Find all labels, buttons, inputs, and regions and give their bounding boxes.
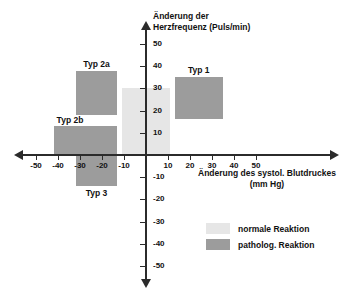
x-axis-tick bbox=[58, 155, 59, 160]
chart-canvas: 5040302010-10-20-30-40-50-50-40-30-20-10… bbox=[0, 0, 361, 301]
y-axis-tick bbox=[140, 111, 145, 112]
y-axis-tick-label: -50 bbox=[153, 261, 165, 270]
y-axis-arrow-down-icon bbox=[141, 279, 151, 288]
y-axis-tick-label: 10 bbox=[153, 128, 162, 137]
legend-item-normale-reaktion: normale Reaktion bbox=[206, 222, 315, 235]
y-axis-tick-label: 50 bbox=[153, 39, 162, 48]
region-label-typ-2b: Typ 2b bbox=[57, 115, 84, 125]
x-axis-tick-label: -30 bbox=[74, 161, 86, 170]
x-axis-tick-label: -40 bbox=[52, 161, 64, 170]
x-axis-tick bbox=[256, 155, 257, 160]
x-axis-tick bbox=[168, 155, 169, 160]
legend-label-patholog-reaktion: patholog. Reaktion bbox=[238, 240, 315, 250]
y-axis-tick-label: -30 bbox=[153, 217, 165, 226]
region-typ-2b bbox=[54, 126, 118, 155]
x-axis-tick-label: -20 bbox=[96, 161, 108, 170]
y-axis-tick bbox=[140, 44, 145, 45]
y-axis-title: Änderung der Herzfrequenz (Puls/min) bbox=[153, 11, 250, 33]
x-axis-title-line2: (mm Hg) bbox=[198, 179, 336, 190]
y-axis-title-line2: Herzfrequenz (Puls/min) bbox=[153, 22, 250, 33]
x-axis-tick-label: 20 bbox=[186, 161, 195, 170]
y-axis-title-line1: Änderung der bbox=[153, 11, 250, 22]
x-axis-tick bbox=[124, 155, 125, 160]
y-axis-tick-label: -10 bbox=[153, 172, 165, 181]
x-axis-arrow-right-icon bbox=[330, 150, 339, 160]
x-axis-title-line1: Änderung des systol. Blutdruckes bbox=[198, 168, 336, 179]
chart-legend: normale Reaktion patholog. Reaktion bbox=[206, 222, 315, 254]
legend-swatch-patholog-reaktion bbox=[206, 239, 230, 250]
y-axis-tick bbox=[140, 133, 145, 134]
y-axis-tick bbox=[140, 199, 145, 200]
x-axis-line bbox=[22, 154, 332, 156]
region-typ-3 bbox=[76, 155, 118, 186]
legend-label-normale-reaktion: normale Reaktion bbox=[238, 224, 309, 234]
x-axis-tick bbox=[102, 155, 103, 160]
y-axis-tick bbox=[140, 88, 145, 89]
legend-item-patholog-reaktion: patholog. Reaktion bbox=[206, 238, 315, 251]
y-axis-arrow-up-icon bbox=[141, 21, 151, 30]
region-typ-2a bbox=[76, 71, 118, 115]
y-axis-tick bbox=[140, 222, 145, 223]
region-typ-1 bbox=[175, 77, 223, 119]
y-axis-tick bbox=[140, 66, 145, 67]
y-axis-tick bbox=[140, 266, 145, 267]
region-label-typ-1: Typ 1 bbox=[188, 65, 210, 75]
y-axis-tick-label: -40 bbox=[153, 239, 165, 248]
x-axis-arrow-left-icon bbox=[14, 150, 23, 160]
x-axis-tick bbox=[190, 155, 191, 160]
y-axis-tick-label: 20 bbox=[153, 106, 162, 115]
legend-swatch-normale-reaktion bbox=[206, 223, 230, 234]
x-axis-title: Änderung des systol. Blutdruckes (mm Hg) bbox=[198, 168, 336, 190]
x-axis-tick bbox=[212, 155, 213, 160]
x-axis-tick bbox=[234, 155, 235, 160]
x-axis-tick bbox=[80, 155, 81, 160]
region-label-typ-2a: Typ 2a bbox=[83, 59, 109, 69]
x-axis-tick-label: -50 bbox=[30, 161, 42, 170]
y-axis-tick-label: -20 bbox=[153, 194, 165, 203]
x-axis-tick-label: 10 bbox=[164, 161, 173, 170]
x-axis-tick-label: -10 bbox=[118, 161, 130, 170]
y-axis-tick-label: 30 bbox=[153, 83, 162, 92]
y-axis-tick bbox=[140, 177, 145, 178]
region-label-typ-3: Typ 3 bbox=[86, 188, 108, 198]
y-axis-tick bbox=[140, 244, 145, 245]
y-axis-tick-label: 40 bbox=[153, 61, 162, 70]
x-axis-tick bbox=[36, 155, 37, 160]
